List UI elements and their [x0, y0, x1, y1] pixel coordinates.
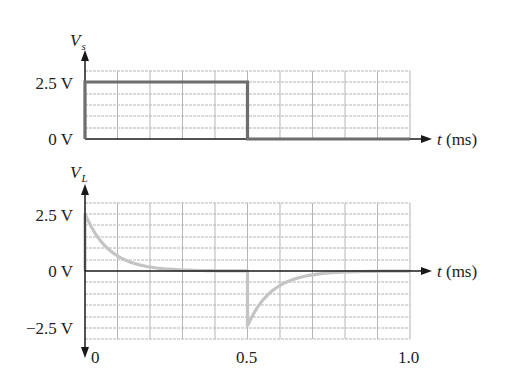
vs-y-axis-label: Vs [70, 32, 85, 49]
vl-y-axis-up-arrow-icon [81, 184, 89, 195]
vl-x-axis-label: t (ms) [437, 263, 477, 280]
vs-trace [85, 82, 410, 139]
vl-label-sub: L [81, 172, 87, 184]
vs-x-unit: (ms) [442, 130, 477, 149]
vs-label-main: V [70, 31, 80, 50]
vs-ytick-2-5: 2.5 V [13, 75, 73, 92]
xtick-1-0: 1.0 [398, 349, 419, 366]
vs-ytick-0: 0 V [13, 131, 73, 148]
vl-ytick-0: 0 V [13, 263, 73, 280]
vs-x-axis-arrow-icon [421, 135, 432, 143]
vl-x-unit: (ms) [442, 262, 477, 281]
xtick-0-5: 0.5 [236, 349, 257, 366]
chart-figure [0, 0, 512, 386]
xtick-0: 0 [91, 349, 100, 366]
vl-y-axis-down-arrow-icon [81, 347, 89, 358]
vl-y-axis-label: VL [70, 164, 87, 181]
vl-x-axis-arrow-icon [421, 267, 432, 275]
vs-plot [81, 50, 432, 143]
vl-ytick-neg-2-5: −2.5 V [13, 320, 73, 337]
vs-label-sub: s [81, 40, 85, 52]
vl-ytick-2-5: 2.5 V [13, 207, 73, 224]
vl-label-main: V [70, 163, 80, 182]
vl-plot [81, 184, 432, 358]
vs-x-axis-label: t (ms) [437, 131, 477, 148]
